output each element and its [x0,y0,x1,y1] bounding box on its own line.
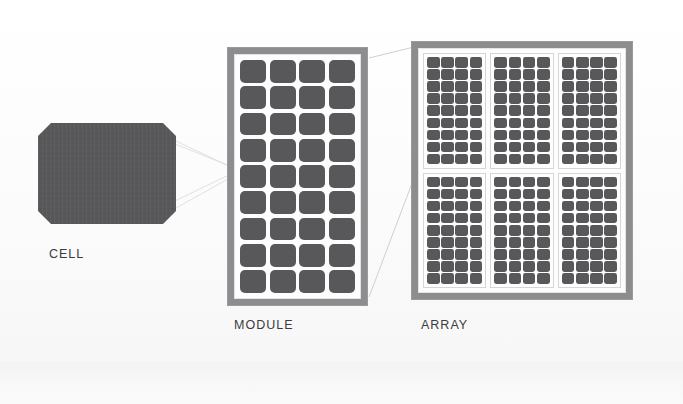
array-pv-cell [441,154,454,165]
array-pv-cell [537,237,550,248]
array-pv-cell [455,213,468,224]
array-pv-cell [523,57,536,68]
array-pv-cell [427,201,440,212]
array-pv-cell [604,273,617,284]
array-pv-cell [590,249,603,260]
array-sub-module [423,53,486,169]
array-pv-cell [455,201,468,212]
array-pv-cell [576,118,589,129]
array-pv-cell [427,130,440,141]
array-pv-cell [576,81,589,92]
array-pv-cell [470,69,483,80]
array-frame [411,41,633,300]
array-pv-cell [470,130,483,141]
array-pv-cell [523,130,536,141]
solar-cell-shape [38,123,176,224]
module-pv-cell [329,191,355,214]
array-pv-cell [590,237,603,248]
array-pv-cell [494,201,507,212]
array-pv-cell [604,130,617,141]
array-pv-cell [427,189,440,200]
array-pv-cell [509,213,522,224]
array-pv-cell [509,201,522,212]
module-pv-cell [299,60,325,83]
array-pv-cell [509,225,522,236]
array-pv-cell [509,105,522,116]
array-pv-cell [604,225,617,236]
array-pv-cell [509,249,522,260]
array-pv-cell [509,130,522,141]
module-pv-cell [270,86,296,109]
array-pv-cell [470,81,483,92]
array-pv-cell [441,57,454,68]
array-pv-cell [562,273,575,284]
array-pv-cell [427,105,440,116]
array-pv-cell [494,213,507,224]
array-pv-cell [523,213,536,224]
array-pv-cell [427,57,440,68]
array-pv-cell [562,189,575,200]
array-pv-cell [470,177,483,188]
array-pv-cell [576,273,589,284]
module-pv-cell [329,86,355,109]
array-pv-cell [470,93,483,104]
array-pv-cell [427,93,440,104]
module-pv-cell [329,218,355,241]
array-pv-cell [590,261,603,272]
array-pv-cell [494,273,507,284]
array-pv-cell [604,177,617,188]
array-pv-cell [455,105,468,116]
array-pv-cell [537,249,550,260]
array-pv-cell [523,81,536,92]
array-pv-cell [590,69,603,80]
array-pv-cell [562,249,575,260]
array-pv-cell [509,118,522,129]
array-pv-cell [441,118,454,129]
array-module-grid [418,48,626,293]
connector-module-to-array-bottom [369,170,417,297]
array-sub-module [490,53,553,169]
label-cell: CELL [49,247,84,261]
array-pv-cell [441,69,454,80]
array-pv-cell [509,189,522,200]
array-pv-cell [427,177,440,188]
connector-module-to-array-top [369,47,414,58]
array-pv-cell [562,105,575,116]
array-pv-cell [441,130,454,141]
array-pv-cell [509,57,522,68]
array-pv-cell [537,201,550,212]
array-pv-cell [441,201,454,212]
module-pv-cell [299,191,325,214]
array-pv-cell [576,105,589,116]
module-pv-cell [299,165,325,188]
module-pv-cell [240,244,266,267]
array-pv-cell [494,225,507,236]
array-pv-cell [455,130,468,141]
module-frame [227,47,368,306]
array-pv-cell [562,201,575,212]
array-pv-cell [604,105,617,116]
array-pv-cell [523,237,536,248]
label-array: ARRAY [421,318,468,332]
array-pv-cell [509,93,522,104]
module-pv-cell [299,244,325,267]
array-pv-cell [494,261,507,272]
array-pv-cell [562,225,575,236]
array-pv-cell [604,142,617,153]
array-pv-cell [576,57,589,68]
stage-module [227,47,368,306]
cell-surface-texture [38,123,176,224]
array-pv-cell [509,154,522,165]
array-pv-cell [590,189,603,200]
array-pv-cell [509,261,522,272]
array-pv-cell [470,273,483,284]
array-pv-cell [455,189,468,200]
array-pv-cell [470,213,483,224]
array-pv-cell [562,57,575,68]
array-pv-cell [537,105,550,116]
array-pv-cell [523,201,536,212]
array-pv-cell [441,189,454,200]
array-pv-cell [523,273,536,284]
array-pv-cell [494,118,507,129]
array-pv-cell [455,118,468,129]
